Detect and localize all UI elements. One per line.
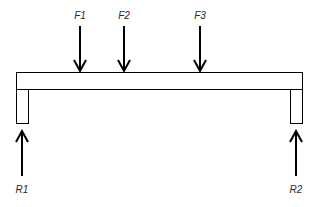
reaction-arrow-r2 xyxy=(290,131,302,176)
load-arrow-f3 xyxy=(194,26,206,71)
beam-diagram xyxy=(0,0,314,207)
reaction-arrow-r1 xyxy=(16,131,28,176)
load-label-f2: F2 xyxy=(118,11,130,21)
load-arrow-f2 xyxy=(118,26,130,71)
reaction-label-r1: R1 xyxy=(16,185,29,195)
reaction-label-r2: R2 xyxy=(290,185,303,195)
load-arrow-f1 xyxy=(74,26,86,71)
right-support xyxy=(291,90,303,124)
load-label-f3: F3 xyxy=(194,11,206,21)
load-label-f1: F1 xyxy=(74,11,86,21)
beam xyxy=(17,73,303,90)
left-support xyxy=(17,90,29,124)
